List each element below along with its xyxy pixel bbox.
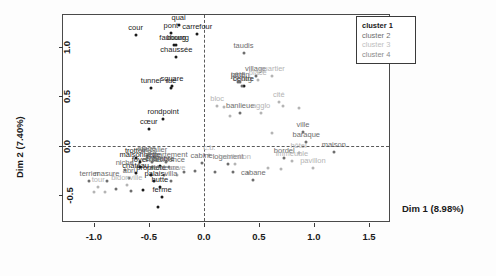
legend-item-cluster-3[interactable]: cluster 3 <box>362 40 410 50</box>
x-tick-label: 1.5 <box>362 231 375 242</box>
scatter-point <box>103 191 106 194</box>
x-tick-label: -0.5 <box>141 231 157 242</box>
x-tick-label: -1.0 <box>86 231 102 242</box>
scatter-point <box>169 180 172 183</box>
scatter-point <box>239 112 242 115</box>
point-label: pavillon <box>300 157 325 165</box>
scatter-point <box>161 196 164 199</box>
scatter-point <box>231 171 234 174</box>
scatter-point <box>92 191 95 194</box>
scatter-point <box>271 131 274 134</box>
point-label: tunnel <box>141 78 161 86</box>
scatter-point <box>134 33 137 36</box>
scatter-point <box>200 161 203 164</box>
legend-item-cluster-4[interactable]: cluster 4 <box>362 50 410 60</box>
x-axis-title: Dim 1 (8.98%) <box>402 203 464 214</box>
scatter-point <box>256 79 259 82</box>
scatter-point <box>290 159 293 162</box>
scatter-point <box>311 166 314 169</box>
scatter-point <box>150 87 153 90</box>
x-tick-label: 0.0 <box>197 231 210 242</box>
scatter-point <box>156 206 159 209</box>
point-label: c.b. <box>203 144 215 152</box>
point-label: quai <box>171 14 185 22</box>
point-label: résidence <box>152 156 185 164</box>
point-label: cour <box>128 24 143 32</box>
y-axis-title: Dim 2 (7.40%) <box>14 164 25 178</box>
scatter-point <box>332 150 335 153</box>
scatter-point <box>114 188 117 191</box>
y-tick-label: 0.5 <box>61 90 72 103</box>
x-tick <box>314 223 315 227</box>
scatter-point <box>271 75 274 78</box>
scatter-point <box>216 105 219 108</box>
scatter-point <box>162 118 165 121</box>
x-zero-reference-line <box>204 15 205 221</box>
x-tick <box>149 223 150 227</box>
point-label: cité <box>273 91 285 99</box>
point-label: ville <box>296 121 309 129</box>
point-label: chaussée <box>160 46 192 54</box>
point-label: baraque <box>292 131 320 139</box>
scatter-point <box>242 51 245 54</box>
scatter-point <box>213 171 216 174</box>
scatter-point <box>97 186 100 189</box>
y-tick-label: 1.0 <box>61 41 72 54</box>
point-label: immeuble <box>276 150 309 158</box>
scatter-point <box>266 166 269 169</box>
scatter-point <box>241 85 244 88</box>
point-label: rondpoint <box>148 108 179 116</box>
scatter-point <box>147 127 150 130</box>
y-tick-label: 0.0 <box>61 140 72 153</box>
point-label: niche <box>116 159 134 167</box>
point-label: hutte <box>152 177 169 185</box>
point-label: cœur <box>140 118 158 126</box>
scatter-point <box>277 101 280 104</box>
y-tick <box>59 195 63 196</box>
scatter-point <box>227 162 230 165</box>
x-tick-label: 1.0 <box>307 231 320 242</box>
scatter-point <box>233 162 236 165</box>
scatter-point <box>125 184 128 187</box>
scatter-point <box>88 180 91 183</box>
scatter-point <box>130 190 133 193</box>
scatter-point <box>169 87 172 90</box>
point-label: ferme <box>152 186 171 194</box>
scatter-point <box>106 180 109 183</box>
scatter-point <box>282 105 285 108</box>
point-label: agglo <box>252 102 270 110</box>
point-label: taudis <box>233 42 253 50</box>
x-tick <box>369 223 370 227</box>
x-tick <box>204 223 205 227</box>
point-label: pont <box>164 22 179 30</box>
scatter-point <box>297 107 300 110</box>
scatter-point <box>252 179 255 182</box>
scatter-point <box>175 55 178 58</box>
x-tick-label: 0.5 <box>252 231 265 242</box>
point-label: bourg <box>167 34 186 42</box>
scatter-point <box>142 189 145 192</box>
point-label: bloc <box>210 95 224 103</box>
legend-item-cluster-2[interactable]: cluster 2 <box>362 31 410 41</box>
point-label: rue <box>165 78 176 86</box>
scatter-point <box>229 115 232 118</box>
scatter-point <box>279 167 282 170</box>
point-label: maison <box>322 141 346 149</box>
point-label: habitation <box>218 153 251 161</box>
scatter-point <box>196 32 199 35</box>
point-label: terrier <box>80 171 100 179</box>
point-label: banlieue <box>226 102 254 110</box>
scatter-point <box>260 112 263 115</box>
scatter-point <box>222 106 225 109</box>
cluster-legend[interactable]: cluster 1cluster 2cluster 3cluster 4 <box>356 16 416 64</box>
x-tick <box>94 223 95 227</box>
scatter-point <box>194 170 197 173</box>
y-tick-label: -0.5 <box>64 188 75 204</box>
plot-area: courpontquaicarrefourfaubourgbourgchauss… <box>62 14 390 222</box>
point-label: carrefour <box>182 23 212 31</box>
x-tick <box>259 223 260 227</box>
factor-map-figure: Dim 2 (7.40%) Dim 1 (8.98%) courpontquai… <box>0 0 496 276</box>
legend-item-cluster-1[interactable]: cluster 1 <box>362 21 410 31</box>
point-label: cabane <box>241 170 266 178</box>
point-label: cabine <box>191 152 213 160</box>
